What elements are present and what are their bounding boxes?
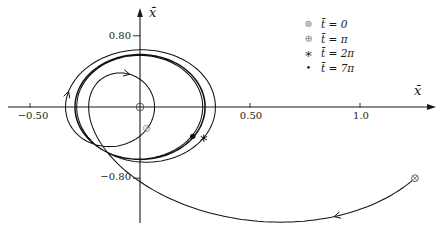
y-tick-label-080: 0.80 <box>91 31 131 41</box>
x-axis-arrowhead <box>427 104 436 110</box>
flow-arrow-icon <box>69 91 70 98</box>
x-tick-label-10: 1.0 <box>339 111 383 121</box>
bullet-icon: • <box>301 63 316 73</box>
legend-item-t7pi: • t̄ = 7π <box>301 61 354 76</box>
circle-cross-icon: ⊗ <box>301 19 316 29</box>
legend: ⊗ t̄ = 0 ⊕ t̄ = π ∗ t̄ = 2π • t̄ = 7π <box>301 17 354 75</box>
legend-item-t2pi: ∗ t̄ = 2π <box>301 46 354 61</box>
legend-label-t0: t̄ = 0 <box>321 18 347 30</box>
flow-arrow-icon <box>334 217 341 219</box>
flow-arrow-icon <box>123 74 130 76</box>
legend-label-tpi: t̄ = π <box>321 33 348 45</box>
circle-plus-icon: ⊕ <box>301 34 316 44</box>
y-axis-arrowhead <box>137 8 143 17</box>
marker-dot <box>190 134 195 139</box>
legend-label-t2pi: t̄ = 2π <box>321 47 354 59</box>
phase-plane-figure: x̄̇ x̄ −0.50 0.50 1.0 0.80 −0.80 ⊗ t̄ = … <box>0 0 444 227</box>
x-axis-label: x̄ <box>414 84 421 97</box>
legend-label-t7pi: t̄ = 7π <box>321 62 354 74</box>
legend-item-tpi: ⊕ t̄ = π <box>301 32 354 47</box>
trajectory-path <box>66 50 415 222</box>
y-tick-label-neg080: −0.80 <box>91 172 131 182</box>
y-axis-label: x̄̇ <box>149 6 156 19</box>
x-tick-label-050: 0.50 <box>229 111 273 121</box>
x-tick-label-neg050: −0.50 <box>11 111 55 121</box>
legend-item-t0: ⊗ t̄ = 0 <box>301 17 354 32</box>
asterisk-icon: ∗ <box>301 47 316 60</box>
